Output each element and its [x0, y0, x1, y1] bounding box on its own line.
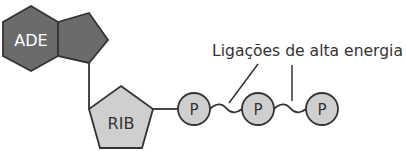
high-energy-bond-2: [274, 104, 306, 112]
phosphate-1: P: [178, 93, 210, 125]
annotation-label: Ligações de alta energia: [212, 42, 403, 60]
phosphate-2: P: [242, 93, 274, 125]
adenine-label: ADE: [14, 31, 47, 50]
ribose-label: RIB: [108, 114, 135, 133]
phosphate-label: P: [189, 101, 198, 119]
high-energy-bond-1: [210, 104, 242, 112]
adenine-group: ADE: [3, 6, 108, 71]
phosphate-3: P: [306, 93, 338, 125]
atp-diagram: ADE RIB P P P Ligações de alta energia: [0, 0, 406, 151]
phosphate-label: P: [317, 101, 326, 119]
phosphate-label: P: [253, 101, 262, 119]
ribose-group: RIB: [89, 86, 153, 148]
adenine-pentagon: [58, 13, 108, 63]
